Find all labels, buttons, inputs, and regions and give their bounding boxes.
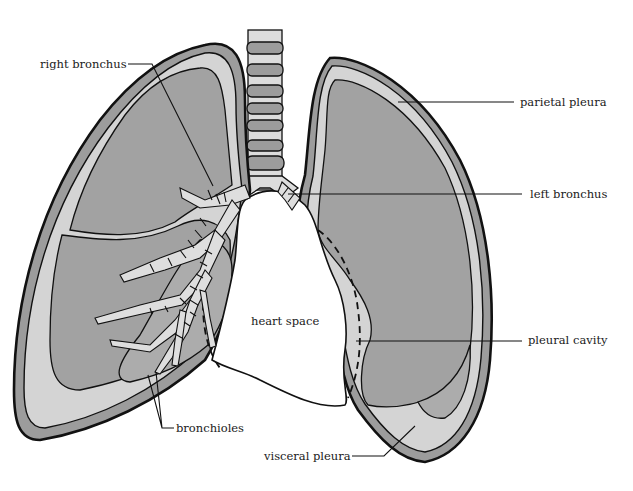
label-right-bronchus: right bronchus — [40, 57, 127, 71]
label-left-bronchus: left bronchus — [530, 187, 607, 201]
lung-pleura-diagram: right bronchus parietal pleura left bron… — [0, 0, 633, 491]
label-bronchioles: bronchioles — [176, 421, 244, 435]
label-parietal-pleura: parietal pleura — [520, 95, 607, 109]
label-heart-space: heart space — [251, 314, 319, 328]
label-pleural-cavity: pleural cavity — [528, 333, 608, 347]
label-visceral-pleura: visceral pleura — [263, 449, 351, 463]
